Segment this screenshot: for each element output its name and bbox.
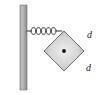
label-side-top-right: d (87, 29, 93, 40)
coil-spring (27, 28, 62, 35)
square-block (44, 31, 84, 71)
physics-figure: d d (0, 0, 100, 95)
wall (20, 5, 27, 90)
spring-coils (31, 28, 56, 35)
diagram-canvas: d d (0, 0, 100, 95)
label-side-bottom-right: d (86, 62, 92, 73)
wall-body (20, 5, 27, 90)
block-center-dot (62, 49, 66, 53)
